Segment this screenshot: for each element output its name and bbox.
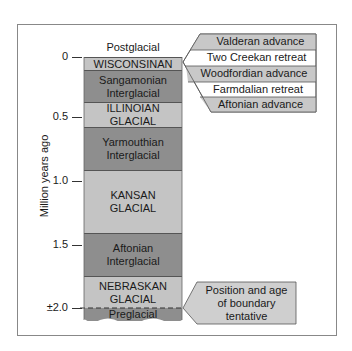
callout-item-farmdalian: Farmdalian retreat xyxy=(200,83,316,95)
callout-item-two-creekan: Two Creekan retreat xyxy=(197,51,316,63)
boundary-note-line-2: of boundary xyxy=(197,297,296,309)
boundary-note-line-3: tentative xyxy=(197,310,296,322)
boundary-note-line-1: Position and age xyxy=(197,284,296,296)
callout-item-aftonian: Aftonian advance xyxy=(205,98,316,110)
callout-item-woodfordian: Woodfordian advance xyxy=(192,67,316,79)
callout-item-valderan: Valderan advance xyxy=(205,35,316,47)
